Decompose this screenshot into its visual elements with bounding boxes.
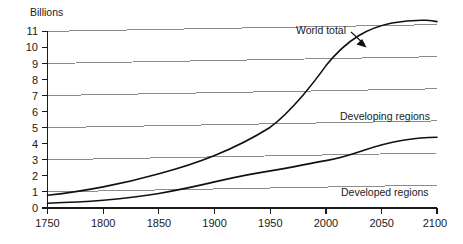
y-tick-label-2: 2 xyxy=(32,170,38,182)
x-tick-label-1800: 1800 xyxy=(91,217,115,229)
x-tick-label-1750: 1750 xyxy=(35,217,59,229)
x-axis-tick-labels: 1750 1800 1850 1900 1950 2000 2050 2100 xyxy=(35,217,447,229)
x-tick-label-2100: 2100 xyxy=(423,217,447,229)
y-axis-tick-labels: 0 1 2 3 4 5 6 7 8 9 10 11 xyxy=(26,25,38,214)
gridline-3 xyxy=(47,153,437,160)
gridline-11 xyxy=(47,25,437,32)
chart-canvas: Billions xyxy=(0,0,463,244)
y-tick-label-6: 6 xyxy=(32,106,38,118)
y-tick-label-8: 8 xyxy=(32,74,38,86)
x-tick-label-2000: 2000 xyxy=(314,217,338,229)
annotation-developing-regions-label: Developing regions xyxy=(340,110,430,122)
y-tick-label-0: 0 xyxy=(32,202,38,214)
y-tick-label-7: 7 xyxy=(32,90,38,102)
x-tick-label-1900: 1900 xyxy=(202,217,226,229)
y-tick-label-11: 11 xyxy=(27,25,38,37)
y-tick-label-1: 1 xyxy=(32,186,38,198)
x-tick-label-1850: 1850 xyxy=(147,217,171,229)
y-tick-label-10: 10 xyxy=(26,41,38,53)
annotation-world-total: World total xyxy=(296,24,367,48)
y-tick-label-5: 5 xyxy=(32,122,38,134)
gridline-7 xyxy=(47,89,437,96)
gridlines xyxy=(47,25,437,192)
x-tick-label-2050: 2050 xyxy=(369,217,393,229)
y-tick-label-9: 9 xyxy=(32,58,38,70)
y-axis-ticks xyxy=(42,31,47,208)
arrow-head-icon xyxy=(356,39,366,47)
annotation-developed-regions-label: Developed regions xyxy=(341,186,429,198)
annotation-world-total-label: World total xyxy=(296,24,346,36)
y-axis-unit-label: Billions xyxy=(30,6,63,18)
x-axis-ticks xyxy=(48,208,438,214)
series-curve-world-total xyxy=(48,20,438,195)
population-projection-chart: Billions xyxy=(0,0,463,244)
x-tick-label-1950: 1950 xyxy=(258,217,282,229)
gridline-9 xyxy=(47,57,437,64)
y-tick-label-4: 4 xyxy=(32,138,38,150)
y-tick-label-3: 3 xyxy=(32,154,38,166)
